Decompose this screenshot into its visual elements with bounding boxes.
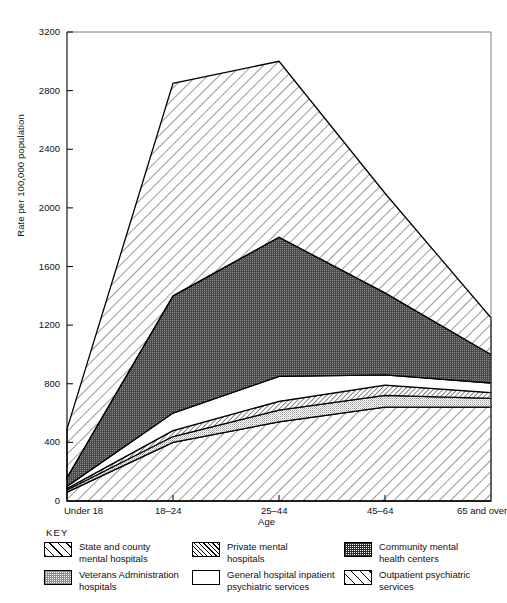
legend-item-label: State and countymental hospitals [79,541,150,564]
y-tick-label: 1200 [20,320,60,330]
legend-item-label: Private mentalhospitals [227,541,288,564]
y-tick-label: 2800 [20,86,60,96]
stacked-area-chart [0,0,507,520]
x-tick-label: 45–64 [367,506,393,516]
legend-item: General hospital inpatientpsychiatric se… [192,569,344,592]
legend-item-label: Outpatient psychiatricservices [379,569,470,592]
x-tick-label: Under 18 [64,506,103,516]
x-tick-label: 25–44 [261,506,287,516]
y-tick-label: 2400 [20,144,60,154]
legend: KEY State and countymental hospitalsVete… [44,527,504,592]
x-tick-label: 18–24 [155,506,181,516]
x-tick-label: 65 and over [457,506,507,516]
legend-item: Community mentalhealth centers [344,541,504,564]
y-tick-label: 3200 [20,27,60,37]
wide-hatch-swatch [44,542,72,557]
dark-stipple-swatch [344,542,372,557]
legend-item-label: Community mentalhealth centers [379,541,458,564]
dense-hatch-swatch [192,542,220,557]
legend-item: Private mentalhospitals [192,541,344,564]
y-tick-label: 2000 [20,203,60,213]
blank-swatch [192,570,220,585]
y-tick-label: 800 [20,379,60,389]
legend-column: Community mentalhealth centersOutpatient… [344,541,504,592]
legend-item: State and countymental hospitals [44,541,192,564]
legend-item: Veterans Administrationhospitals [44,569,192,592]
legend-column: State and countymental hospitalsVeterans… [44,541,192,592]
legend-item-label: General hospital inpatientpsychiatric se… [227,569,335,592]
legend-item: Outpatient psychiatricservices [344,569,504,592]
chart-figure: Rate per 100,000 population 040080012001… [0,0,507,603]
y-axis-label: Rate per 100,000 population [15,76,26,276]
light-stipple-swatch [44,570,72,585]
wide-hatch-swatch [344,570,372,585]
plot-area: Rate per 100,000 population 040080012001… [0,0,507,520]
legend-column: Private mentalhospitalsGeneral hospital … [192,541,344,592]
x-axis-label-text: Age [258,516,275,527]
y-tick-label: 400 [20,437,60,447]
legend-item-label: Veterans Administrationhospitals [79,569,179,592]
legend-columns: State and countymental hospitalsVeterans… [44,541,504,592]
x-axis-label: Age [0,516,507,527]
y-tick-label: 1600 [20,262,60,272]
y-tick-label: 0 [20,496,60,506]
legend-title: KEY [46,527,504,538]
